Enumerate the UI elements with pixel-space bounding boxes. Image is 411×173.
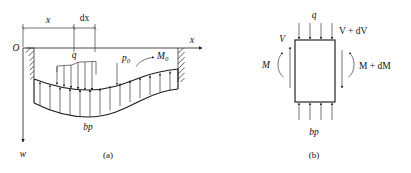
moment-right-arrow (348, 53, 354, 77)
differential-element (295, 40, 335, 102)
moment-left-label: M (261, 60, 271, 70)
panel-a-caption: (a) (103, 150, 113, 160)
bp-bottom-arrow-group (299, 103, 332, 120)
m0-moment-arrow (136, 57, 154, 66)
bp-reaction-label: bp (83, 122, 93, 132)
panel-a: x dx x O w (13, 13, 202, 160)
moment-right-label: M + dM (359, 61, 391, 71)
dimension-x-label: x (45, 15, 51, 25)
dimension-dx-label: dx (80, 13, 90, 23)
panel-b-caption: (b) (309, 150, 320, 160)
figure-container: x dx x O w (0, 0, 411, 173)
bp-arrow-group (40, 71, 170, 117)
m0-moment-label: M0 (156, 51, 169, 62)
q-top-label: q (312, 10, 317, 20)
beam-deflection-curve (34, 69, 178, 90)
mechanics-figure: x dx x O w (0, 0, 411, 173)
moment-left-arrow (278, 53, 284, 77)
shear-right-label: V + dV (339, 26, 368, 36)
left-support-hatching (26, 48, 34, 79)
origin-label: O (13, 43, 20, 53)
p0-load-label: p0 (121, 53, 131, 64)
bp-bottom-label: bp (309, 127, 319, 137)
q-load-envelope (57, 61, 96, 74)
x-axis-label: x (189, 35, 195, 45)
q-load-label: q (72, 50, 77, 60)
q-top-arrow-group (299, 23, 332, 39)
panel-b: q V V + dV M M + dM bp (b) (261, 10, 391, 160)
soil-reaction-envelope (34, 89, 178, 117)
shear-left-label: V (279, 34, 286, 44)
w-axis-label: w (20, 149, 27, 159)
right-support-hatching (178, 48, 185, 82)
